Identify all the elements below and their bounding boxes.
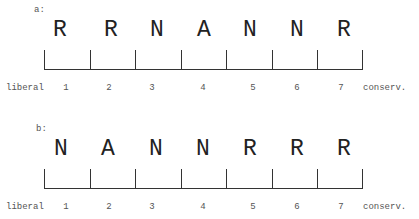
scale-number: 7	[335, 83, 347, 93]
scale-number: 6	[291, 83, 303, 93]
scale-number: 6	[291, 202, 303, 212]
scale-letter: R	[96, 17, 126, 43]
scale-tick	[226, 169, 227, 188]
scale-tick	[272, 169, 273, 188]
panel-b-label: b:	[36, 124, 47, 134]
scale-letter: R	[235, 136, 265, 162]
scale-number: 2	[103, 83, 115, 93]
scale-letter: A	[93, 136, 123, 162]
scale-tick	[181, 50, 182, 69]
scale-tick	[226, 50, 227, 69]
scale-number: 1	[60, 202, 72, 212]
rating-scale-a	[44, 50, 363, 70]
scale-letter: R	[329, 136, 359, 162]
scale-tick	[362, 169, 363, 188]
scale-number: 7	[335, 202, 347, 212]
rating-scale-b	[44, 169, 363, 189]
right-end-label: conserv.	[363, 83, 406, 93]
left-end-label: liberal	[6, 83, 44, 93]
left-end-label: liberal	[6, 202, 44, 212]
scale-tick	[135, 50, 136, 69]
scale-tick	[44, 50, 45, 69]
panel-a: a: R R N A N N R liberal 1 2 3 4 5 6 7 c…	[0, 0, 419, 110]
scale-number: 4	[197, 202, 209, 212]
scale-letter: R	[329, 17, 359, 43]
panel-a-label: a:	[34, 5, 45, 15]
panel-b: b: N A N N R R R liberal 1 2 3 4 5 6 7 c…	[0, 110, 419, 219]
scale-number: 3	[146, 202, 158, 212]
scale-letter: N	[142, 17, 172, 43]
scale-letter: N	[282, 17, 312, 43]
scale-number: 5	[247, 202, 259, 212]
scale-tick	[317, 169, 318, 188]
scale-tick	[135, 169, 136, 188]
right-end-label: conserv.	[363, 202, 406, 212]
scale-letter: N	[188, 136, 218, 162]
scale-tick	[272, 50, 273, 69]
scale-letter: N	[235, 17, 265, 43]
scale-tick	[181, 169, 182, 188]
scale-tick	[317, 50, 318, 69]
scale-letter: A	[189, 17, 219, 43]
scale-tick	[44, 169, 45, 188]
scale-letter: R	[282, 136, 312, 162]
scale-number: 4	[197, 83, 209, 93]
scale-letter: N	[141, 136, 171, 162]
scale-tick	[90, 169, 91, 188]
scale-number: 5	[247, 83, 259, 93]
scale-tick	[362, 50, 363, 69]
scale-letter: R	[45, 17, 75, 43]
scale-tick	[90, 50, 91, 69]
scale-number: 1	[60, 83, 72, 93]
scale-number: 3	[146, 83, 158, 93]
scale-letter: N	[46, 136, 76, 162]
scale-number: 2	[103, 202, 115, 212]
